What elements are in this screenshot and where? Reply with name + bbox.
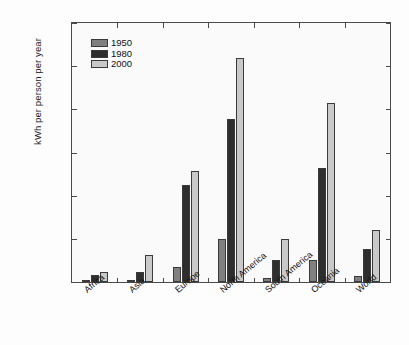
x-tick-mark	[254, 278, 255, 283]
x-tick-mark	[163, 278, 164, 283]
x-tick-mark	[299, 23, 300, 28]
x-tick-mark	[208, 278, 209, 283]
x-tick-mark	[117, 23, 118, 28]
x-tick-mark	[299, 278, 300, 283]
energy-consumption-bar-chart: kWh per person per year 02,0004,0006,000…	[0, 0, 409, 345]
legend-label: 2000	[111, 59, 132, 69]
chart-legend: 195019802000	[89, 36, 136, 72]
y-tick-mark	[386, 196, 391, 197]
x-tick-mark	[345, 278, 346, 283]
bar	[309, 260, 317, 282]
y-tick-mark	[72, 153, 77, 154]
bar	[227, 119, 235, 282]
bar	[318, 168, 326, 282]
legend-swatch-icon	[91, 39, 108, 47]
bar	[191, 171, 199, 282]
y-tick-mark	[72, 23, 77, 24]
legend-item: 1950	[91, 38, 132, 48]
x-tick-mark	[208, 23, 209, 28]
bar	[173, 267, 181, 282]
plot-area: 195019802000	[71, 22, 391, 283]
y-tick-mark	[386, 153, 391, 154]
bar	[327, 103, 335, 282]
y-tick-mark	[386, 23, 391, 24]
y-tick-mark	[72, 109, 77, 110]
y-tick-mark	[72, 239, 77, 240]
y-tick-mark	[386, 239, 391, 240]
x-tick-mark	[117, 278, 118, 283]
legend-label: 1980	[111, 49, 132, 59]
legend-swatch-icon	[91, 50, 108, 58]
legend-item: 2000	[91, 59, 132, 69]
legend-item: 1980	[91, 49, 132, 59]
y-tick-mark	[72, 66, 77, 67]
bar	[182, 185, 190, 282]
y-axis-title: kWh per person per year	[32, 0, 43, 192]
bar	[218, 239, 226, 282]
bar	[236, 58, 244, 282]
y-tick-mark	[72, 196, 77, 197]
x-tick-mark	[345, 23, 346, 28]
y-tick-mark	[386, 109, 391, 110]
legend-swatch-icon	[91, 60, 108, 68]
x-tick-mark	[254, 23, 255, 28]
bar	[145, 255, 153, 282]
legend-label: 1950	[111, 38, 132, 48]
y-tick-mark	[386, 66, 391, 67]
x-tick-mark	[163, 23, 164, 28]
